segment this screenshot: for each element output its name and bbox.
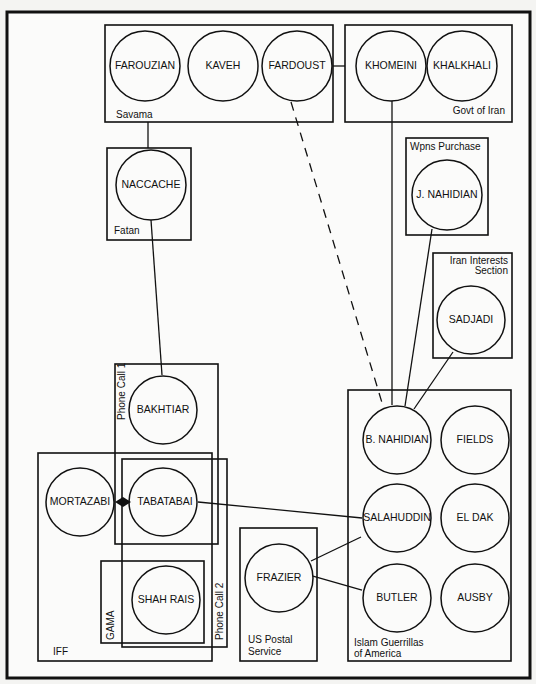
node-label-fields: FIELDS xyxy=(457,433,494,445)
label-iff: IFF xyxy=(53,646,68,657)
node-label-jnahidian: J. NAHIDIAN xyxy=(416,188,477,200)
node-label-kaveh: KAVEH xyxy=(206,59,241,71)
node-label-shahrais: SHAH RAIS xyxy=(138,593,195,605)
label-phone-call-2: Phone Call 2 xyxy=(214,582,225,640)
label-savama: Savama xyxy=(116,109,153,120)
node-label-tabatabai: TABATABAI xyxy=(137,495,192,507)
label-wpns-purchase: Wpns Purchase xyxy=(410,141,481,152)
node-label-bnahidian: B. NAHIDIAN xyxy=(365,433,428,445)
node-label-khomeini: KHOMEINI xyxy=(365,59,417,71)
link-analysis-diagram: Savama Govt of Iran Fatan Wpns Purchase … xyxy=(0,0,536,684)
label-iran-interests-2: Section xyxy=(475,265,508,276)
node-label-naccache: NACCACHE xyxy=(122,178,181,190)
label-iga-2: of America xyxy=(354,648,402,659)
label-gama: GAMA xyxy=(105,610,116,640)
node-label-mortazabi: MORTAZABI xyxy=(50,495,110,507)
label-usps-2: Service xyxy=(248,646,282,657)
label-phone-call-1: Phone Call 1 xyxy=(116,362,127,420)
node-label-eldak: EL DAK xyxy=(457,511,494,523)
label-iga-1: Islam Guerrillas xyxy=(354,637,423,648)
node-label-khalkhali: KHALKHALI xyxy=(433,59,491,71)
node-label-sadjadi: SADJADI xyxy=(449,313,493,325)
node-label-ausby: AUSBY xyxy=(457,591,493,603)
node-label-bakhtiar: BAKHTIAR xyxy=(137,403,190,415)
label-usps-1: US Postal xyxy=(248,634,292,645)
label-govt-of-iran: Govt of Iran xyxy=(453,105,505,116)
node-label-salahuddin: SALAHUDDIN xyxy=(363,511,431,523)
node-label-fardoust: FARDOUST xyxy=(268,59,326,71)
node-label-farouzian: FAROUZIAN xyxy=(115,59,175,71)
node-label-butler: BUTLER xyxy=(376,591,418,603)
node-label-frazier: FRAZIER xyxy=(257,571,302,583)
label-fatan: Fatan xyxy=(114,225,140,236)
